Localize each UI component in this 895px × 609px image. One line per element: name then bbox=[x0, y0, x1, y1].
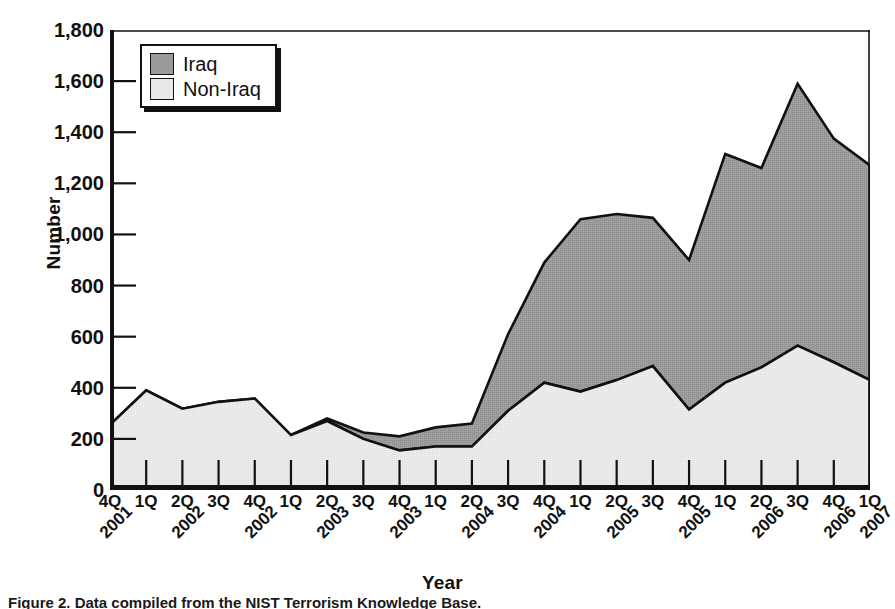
legend-item: Iraq bbox=[150, 51, 261, 76]
y-axis-tick-label: 1,800 bbox=[18, 20, 104, 40]
legend-item-label: Iraq bbox=[183, 54, 217, 74]
y-axis-tick-label: 1,000 bbox=[18, 224, 104, 244]
y-axis-tick-label: 1,200 bbox=[18, 173, 104, 193]
x-axis-tick-group: 1Q2007 bbox=[840, 493, 895, 534]
y-axis-tick-label: 1,400 bbox=[18, 122, 104, 142]
y-axis-tick-label: 200 bbox=[18, 429, 104, 449]
y-axis-tick-label: 800 bbox=[18, 276, 104, 296]
x-axis-title: Year bbox=[0, 572, 885, 594]
figure-caption: Figure 2. Data compiled from the NIST Te… bbox=[8, 594, 878, 609]
y-axis-tick-label: 600 bbox=[18, 327, 104, 347]
area-series-layers bbox=[110, 84, 870, 490]
legend-item: Non-Iraq bbox=[150, 76, 261, 101]
chart-legend: IraqNon-Iraq bbox=[140, 44, 277, 108]
y-axis-tick-label: 400 bbox=[18, 378, 104, 398]
y-axis-tick-label: 1,600 bbox=[18, 71, 104, 91]
legend-color-swatch bbox=[150, 78, 174, 100]
legend-color-swatch bbox=[150, 53, 174, 75]
legend-item-label: Non-Iraq bbox=[183, 79, 261, 99]
